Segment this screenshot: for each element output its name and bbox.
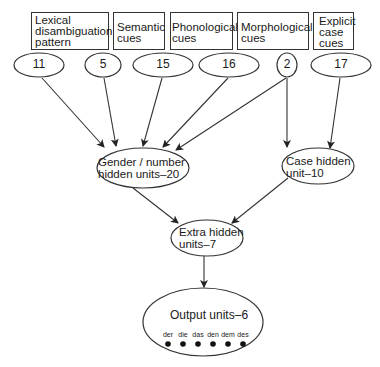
units-count-15: 15 (148, 57, 178, 71)
edge-15-gender (143, 78, 162, 146)
input-box-semantic: Semantic cues (113, 12, 165, 50)
input-box-explicit-case: Explicit case cues (313, 12, 354, 50)
edge-17-case (330, 78, 340, 148)
label-line: unit–10 (286, 167, 351, 179)
output-article-des: des (234, 331, 252, 338)
output-dot-des (240, 341, 246, 347)
label-line: Extra hidden (179, 226, 244, 238)
output-dot-das (195, 341, 201, 347)
box-line: cues (319, 38, 350, 49)
input-box-phonological: Phonological cues (170, 12, 233, 50)
edge-11-gender (42, 78, 104, 147)
output-dot-die (180, 341, 186, 347)
output-dot-dem (225, 341, 231, 347)
gender-hidden-label: Gender / number hidden units–20 (98, 156, 185, 180)
label-line: Case hidden (286, 155, 351, 167)
units-count-11: 11 (24, 57, 54, 71)
units-count-2: 2 (272, 57, 302, 71)
edge-case-extra (232, 178, 288, 223)
units-count-5: 5 (88, 57, 118, 71)
label-line: Gender / number (98, 156, 185, 168)
label-line: hidden units–20 (98, 168, 185, 180)
output-title: Output units–6 (170, 309, 248, 321)
case-hidden-label: Case hidden unit–10 (286, 155, 351, 179)
input-box-morphological: Morphological cues (237, 12, 309, 50)
edge-5-gender (104, 78, 116, 146)
box-line: cues (241, 33, 305, 44)
extra-hidden-label: Extra hidden units–7 (179, 226, 244, 250)
output-dot-der (165, 341, 171, 347)
box-line: cues (172, 33, 229, 44)
box-line: pattern (35, 37, 105, 48)
input-box-lexical: Lexical disambiguation pattern (31, 12, 109, 50)
label-line: units–7 (179, 238, 244, 250)
units-count-16: 16 (214, 57, 244, 71)
units-count-17: 17 (326, 57, 356, 71)
box-line: cues (117, 33, 161, 44)
edge-2-gender (176, 78, 286, 150)
edge-gender-extra (133, 188, 178, 223)
output-dot-den (210, 341, 216, 347)
